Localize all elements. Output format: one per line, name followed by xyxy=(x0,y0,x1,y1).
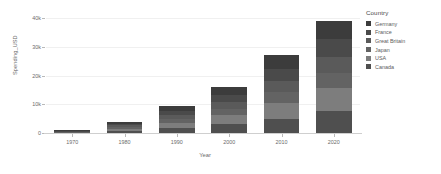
x-axis-tick-label: 2010 xyxy=(276,139,288,145)
y-axis-tick-label: 40k xyxy=(32,15,41,21)
bar-segment[interactable] xyxy=(264,81,300,92)
bar-stack[interactable] xyxy=(54,18,90,133)
y-axis-tick-mark xyxy=(42,18,45,19)
legend: Country GermanyFranceGreat BritainJapanU… xyxy=(366,9,440,71)
legend-item[interactable]: Germany xyxy=(366,20,440,29)
y-axis-tick-mark xyxy=(42,76,45,77)
bar-segment[interactable] xyxy=(264,103,300,119)
bar-segment[interactable] xyxy=(264,69,300,81)
legend-item[interactable]: France xyxy=(366,28,440,37)
legend-item-label: USA xyxy=(375,55,386,61)
bar-segment[interactable] xyxy=(316,111,352,133)
bar-stack[interactable] xyxy=(316,18,352,133)
stacked-bar-chart: Spending_USD 010k20k30k40k 1970198019902… xyxy=(0,0,441,174)
bar-segment[interactable] xyxy=(159,115,195,119)
x-axis-tick-label: 2020 xyxy=(328,139,340,145)
y-axis-tick-label: 30k xyxy=(32,44,41,50)
legend-swatch-icon xyxy=(366,56,371,61)
x-axis-tick-mark xyxy=(125,134,126,137)
gridline xyxy=(46,104,360,105)
x-axis-tick-label: 1990 xyxy=(171,139,183,145)
gridline xyxy=(46,18,360,19)
y-axis-tick-label: 10k xyxy=(32,101,41,107)
bar-segment[interactable] xyxy=(107,127,143,129)
gridline xyxy=(46,76,360,77)
bar-segment[interactable] xyxy=(54,131,90,132)
legend-item-label: France xyxy=(375,29,392,35)
bar-segment[interactable] xyxy=(107,129,143,131)
legend-item[interactable]: Canada xyxy=(366,62,440,71)
bar-segment[interactable] xyxy=(211,102,247,109)
bar-segment[interactable] xyxy=(264,92,300,103)
plot-area xyxy=(46,18,360,133)
bar-segment[interactable] xyxy=(211,115,247,124)
bar-segment[interactable] xyxy=(316,39,352,56)
bar-stack[interactable] xyxy=(264,18,300,133)
bar-segment[interactable] xyxy=(159,106,195,111)
legend-item-label: Canada xyxy=(375,64,394,70)
bar-segment[interactable] xyxy=(107,124,143,126)
legend-item[interactable]: Japan xyxy=(366,45,440,54)
legend-swatch-icon xyxy=(366,30,371,35)
bar-segment[interactable] xyxy=(316,88,352,111)
x-axis-tick-mark xyxy=(177,134,178,137)
legend-swatch-icon xyxy=(366,21,371,26)
bar-segment[interactable] xyxy=(54,130,90,131)
x-axis-tick-label: 1970 xyxy=(66,139,78,145)
bar-segment[interactable] xyxy=(264,55,300,68)
legend-items: GermanyFranceGreat BritainJapanUSACanada xyxy=(366,20,440,72)
x-axis-tick-label: 1980 xyxy=(119,139,131,145)
bar-segment[interactable] xyxy=(316,57,352,73)
x-axis-tick-mark xyxy=(334,134,335,137)
y-axis-title: Spending_USD xyxy=(12,35,18,75)
bar-segment[interactable] xyxy=(159,119,195,123)
legend-item-label: Great Britain xyxy=(375,38,405,44)
bar-segment[interactable] xyxy=(211,87,247,95)
y-axis-tick-mark xyxy=(42,104,45,105)
bar-segment[interactable] xyxy=(316,21,352,39)
x-axis-tick-mark xyxy=(72,134,73,137)
bar-segment[interactable] xyxy=(159,111,195,115)
bar-stack[interactable] xyxy=(211,18,247,133)
bar-stack[interactable] xyxy=(107,18,143,133)
x-axis-tick-mark xyxy=(282,134,283,137)
legend-item[interactable]: USA xyxy=(366,54,440,63)
legend-item-label: Japan xyxy=(375,47,390,53)
bar-segment[interactable] xyxy=(211,124,247,133)
legend-swatch-icon xyxy=(366,38,371,43)
y-axis-tick-label: 0 xyxy=(38,130,41,136)
bar-segment[interactable] xyxy=(264,119,300,133)
gridline xyxy=(46,47,360,48)
x-axis-tick-label: 2000 xyxy=(223,139,235,145)
bar-segment[interactable] xyxy=(159,123,195,128)
bar-segment[interactable] xyxy=(107,125,143,127)
legend-item[interactable]: Great Britain xyxy=(366,37,440,46)
bar-stack[interactable] xyxy=(159,18,195,133)
y-axis-tick-label: 20k xyxy=(32,73,41,79)
x-axis-title: Year xyxy=(199,152,211,158)
legend-item-label: Germany xyxy=(375,21,397,27)
legend-title: Country xyxy=(366,9,440,16)
y-axis-tick-mark xyxy=(42,47,45,48)
bar-segment[interactable] xyxy=(211,109,247,115)
x-axis-domain-line xyxy=(44,133,362,134)
bar-segment[interactable] xyxy=(211,95,247,102)
bar-segment[interactable] xyxy=(316,73,352,88)
bar-segment[interactable] xyxy=(107,122,143,124)
x-axis-tick-mark xyxy=(229,134,230,137)
legend-swatch-icon xyxy=(366,47,371,52)
legend-swatch-icon xyxy=(366,64,371,69)
